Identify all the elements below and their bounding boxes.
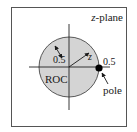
roc-label: ROC <box>45 73 68 85</box>
inner-radius-label: 0.5 <box>53 54 66 65</box>
pole-label: pole <box>103 84 122 96</box>
pole-position-label: 0.5 <box>103 56 116 67</box>
vector-z-label: z <box>87 51 92 62</box>
z-plane-diagram: z-plane 0.5 z 0.5 ROC pole <box>0 0 137 132</box>
pole-marker-icon <box>95 64 102 71</box>
plane-title: z-plane <box>90 11 123 23</box>
